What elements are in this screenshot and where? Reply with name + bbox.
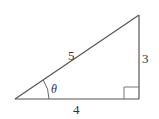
triangle-svg: 5 3 4 θ bbox=[0, 0, 159, 119]
angle-arc bbox=[43, 80, 49, 99]
adjacent-label: 4 bbox=[73, 102, 80, 117]
hypotenuse-label: 5 bbox=[68, 48, 75, 63]
hypotenuse-side bbox=[15, 15, 139, 99]
opposite-label: 3 bbox=[142, 51, 149, 66]
angle-theta-label: θ bbox=[51, 82, 57, 96]
right-angle-marker bbox=[124, 87, 139, 99]
triangle-diagram: 5 3 4 θ bbox=[0, 0, 159, 119]
